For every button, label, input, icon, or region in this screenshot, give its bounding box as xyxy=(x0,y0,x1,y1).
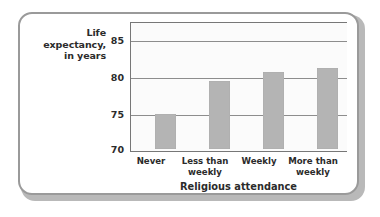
y-axis-title-line-1: Life xyxy=(20,27,106,39)
y-tick-label-80: 80 xyxy=(100,72,124,83)
y-axis-title-line-3: in years xyxy=(20,50,106,62)
category-label-more-than-weekly: More than weekly xyxy=(278,156,348,177)
bar-never xyxy=(155,114,176,149)
plot-area xyxy=(130,22,347,152)
y-axis-title: Life expectancy, in years xyxy=(20,27,106,62)
category-label-more-than-weekly-line-1: More than xyxy=(278,156,348,167)
x-axis-title: Religious attendance xyxy=(130,181,347,192)
figure-container: Life expectancy, in years 85 80 75 70 Ne… xyxy=(0,0,380,217)
bar-less-than-weekly xyxy=(209,81,230,149)
gridline-80 xyxy=(131,78,347,79)
category-label-less-than-weekly-line-2: weekly xyxy=(170,167,240,178)
y-tick-label-85: 85 xyxy=(100,35,124,46)
y-tick-label-70: 70 xyxy=(100,144,124,155)
y-axis-title-line-2: expectancy, xyxy=(20,39,106,51)
plot-inner xyxy=(131,23,347,151)
bar-more-than-weekly xyxy=(317,68,338,149)
y-tick-label-75: 75 xyxy=(100,109,124,120)
category-label-more-than-weekly-line-2: weekly xyxy=(278,167,348,178)
bar-weekly xyxy=(263,72,284,149)
gridline-85 xyxy=(131,41,347,42)
